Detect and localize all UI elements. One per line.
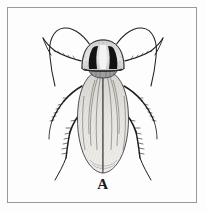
hindleg-right-tibia [136,132,140,158]
figure-plate: A [0,0,206,212]
foreleg-right-tibia [151,38,163,51]
hindleg-left-tibia [66,132,70,158]
figure-label: A [0,176,206,192]
foreleg-right-spines [131,51,148,59]
midleg-left-tarsus [49,121,52,139]
foreleg-left-femur [55,51,86,62]
foreleg-right-femur [120,51,151,62]
wings-group [77,70,128,173]
foreleg-left-tibia [43,38,55,51]
wing-hatching-right [103,70,129,173]
pronotum-median-stripe [99,45,107,69]
foreleg-left-spines [58,51,75,59]
midleg-right-tarsus [154,121,157,139]
pronotum-group [82,40,124,71]
